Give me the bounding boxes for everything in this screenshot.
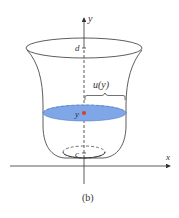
vessel-outline <box>27 50 142 158</box>
figure-caption: (b) <box>82 192 94 204</box>
radius-brace <box>85 93 125 100</box>
top-label-d: d <box>75 43 80 53</box>
radius-label: u(y) <box>93 79 110 91</box>
y-axis-label: y <box>87 13 93 24</box>
level-point <box>82 111 86 115</box>
vessel-diagram: y x d c y u(y) (b) <box>0 0 179 218</box>
level-label-y: y <box>74 109 79 119</box>
x-axis-label: x <box>165 152 170 162</box>
bottom-label-c: c <box>75 149 79 159</box>
